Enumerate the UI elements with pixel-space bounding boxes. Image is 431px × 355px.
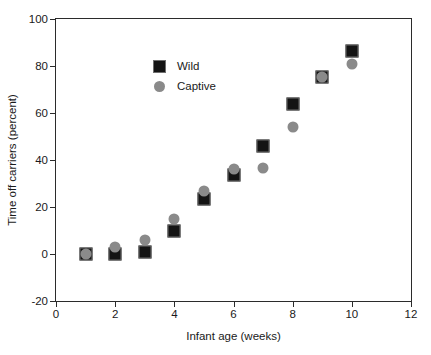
x-axis-title: Infant age (weeks) (55, 330, 412, 342)
legend-circle-marker-icon (148, 81, 170, 92)
chart-legend: Wild Captive (148, 56, 216, 96)
data-point-wild (138, 245, 151, 258)
x-tick-mark (411, 301, 412, 307)
x-tick-mark (293, 301, 294, 307)
data-point-captive (198, 185, 209, 196)
y-tick-label: 40 (35, 154, 48, 166)
x-tick-mark (174, 301, 175, 307)
y-tick-mark (50, 207, 56, 208)
plot-area: -20020406080100 024681012 Wild Captive (55, 18, 412, 302)
data-point-wild (168, 224, 181, 237)
data-point-captive (346, 58, 357, 69)
y-tick-label: 20 (35, 201, 48, 213)
legend-item-captive: Captive (148, 76, 216, 96)
legend-label-captive: Captive (177, 80, 216, 92)
x-tick-label: 8 (289, 308, 295, 320)
x-tick-label: 6 (230, 308, 236, 320)
y-tick-mark (50, 254, 56, 255)
y-tick-label: -20 (31, 295, 48, 307)
y-tick-label: 60 (35, 107, 48, 119)
y-tick-label: 80 (35, 60, 48, 72)
x-tick-label: 0 (53, 308, 59, 320)
data-point-captive (139, 234, 150, 245)
x-tick-label: 4 (171, 308, 177, 320)
y-axis-title: Time off carriers (percent) (4, 18, 20, 302)
y-tick-mark (50, 160, 56, 161)
scatter-chart-figure: Time off carriers (percent) -20020406080… (0, 0, 431, 355)
y-tick-mark (50, 113, 56, 114)
x-tick-label: 2 (112, 308, 118, 320)
data-point-captive (228, 164, 239, 175)
y-tick-mark (50, 19, 56, 20)
x-tick-mark (115, 301, 116, 307)
x-tick-mark (234, 301, 235, 307)
x-tick-label: 10 (345, 308, 358, 320)
legend-item-wild: Wild (148, 56, 216, 76)
data-point-captive (317, 71, 328, 82)
y-tick-label: 0 (42, 248, 48, 260)
data-point-wild (286, 97, 299, 110)
x-tick-mark (352, 301, 353, 307)
data-point-captive (169, 213, 180, 224)
legend-label-wild: Wild (177, 60, 199, 72)
data-point-captive (110, 241, 121, 252)
data-point-captive (258, 163, 269, 174)
data-point-captive (80, 249, 91, 260)
y-tick-label: 100 (29, 13, 48, 25)
x-tick-label: 12 (405, 308, 418, 320)
y-axis-title-text: Time off carriers (percent) (6, 94, 18, 226)
x-tick-mark (56, 301, 57, 307)
data-point-wild (345, 44, 358, 57)
legend-square-marker-icon (148, 60, 170, 73)
data-point-captive (287, 122, 298, 133)
data-point-wild (257, 139, 270, 152)
y-tick-mark (50, 66, 56, 67)
